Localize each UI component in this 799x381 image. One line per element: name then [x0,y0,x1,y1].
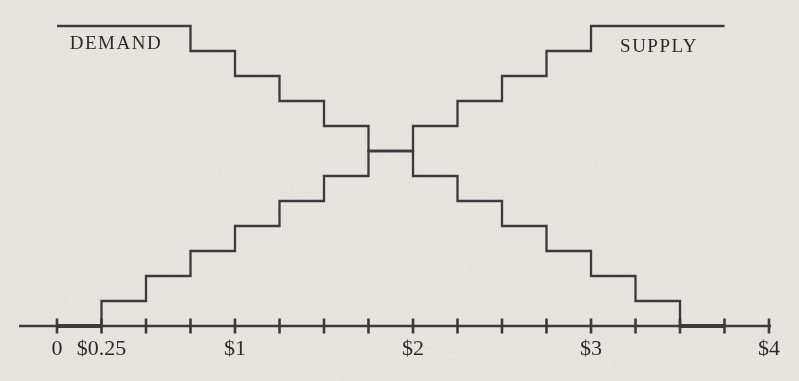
x-axis-label: $1 [224,335,246,360]
x-axis-label: $0.25 [77,335,127,360]
supply-demand-chart: 0$0.25$1$2$3$4DEMANDSUPPLY [0,0,799,381]
scanned-book-figure: 0$0.25$1$2$3$4DEMANDSUPPLY [0,0,799,381]
supply-label: SUPPLY [620,35,698,56]
demand-label: DEMAND [70,32,162,53]
x-axis-label: $4 [758,335,780,360]
figure-ink-layer: 0$0.25$1$2$3$4DEMANDSUPPLY [19,26,780,360]
x-axis-label: $3 [580,335,602,360]
x-axis-label: $2 [402,335,424,360]
supply-curve [57,26,725,326]
x-axis-label: 0 [52,335,63,360]
demand-curve [57,26,725,326]
